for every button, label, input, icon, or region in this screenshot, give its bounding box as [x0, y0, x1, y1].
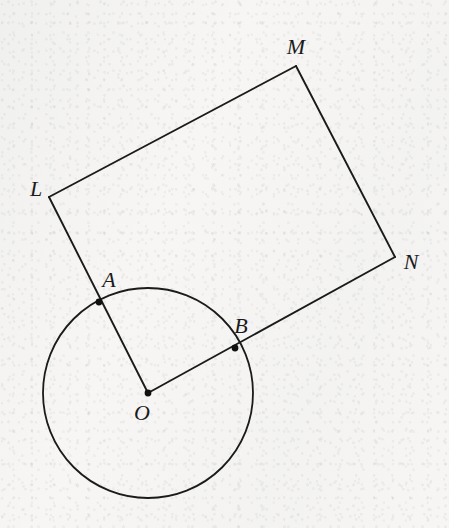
- vertex-label-B: B: [234, 315, 247, 337]
- vertex-label-L: L: [30, 178, 42, 200]
- point-marker-A: [96, 299, 103, 306]
- figure-canvas: [0, 0, 449, 528]
- point-marker-O: [145, 390, 152, 397]
- vertex-label-N: N: [404, 251, 419, 273]
- figure-shapes: [43, 66, 395, 498]
- segment-L-to-M: [49, 66, 296, 197]
- segment-L-through-A-to-O: [49, 197, 148, 393]
- segment-N-through-B-to-O: [148, 257, 395, 393]
- segment-M-to-N: [296, 66, 395, 257]
- point-marker-B: [232, 345, 239, 352]
- geometry-figure: L M N A B O: [0, 0, 449, 528]
- vertex-label-M: M: [287, 36, 305, 58]
- vertex-label-O: O: [134, 402, 150, 424]
- vertex-label-A: A: [102, 269, 115, 291]
